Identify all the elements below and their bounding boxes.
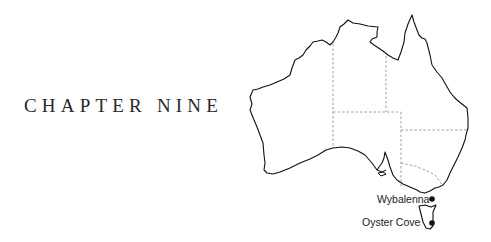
place-label-wybalenna: Wybalenna — [377, 193, 429, 205]
mainland-outline — [250, 15, 468, 193]
tasmania-outline — [419, 205, 436, 229]
state-borders — [333, 44, 468, 186]
wybalenna-marker-icon — [429, 196, 435, 202]
gulf-inlet — [377, 170, 386, 172]
kangaroo-island — [378, 172, 386, 176]
oyster-cove-marker-icon — [429, 220, 435, 226]
place-label-oyster-cove: Oyster Cove — [362, 216, 420, 228]
australia-map — [0, 0, 491, 242]
